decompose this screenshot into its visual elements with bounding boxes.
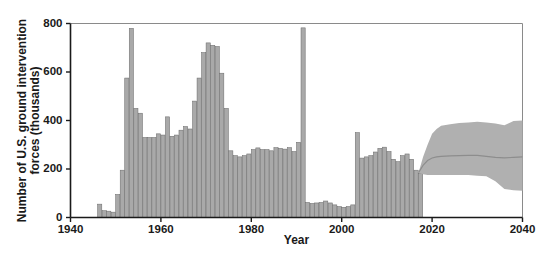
bar — [405, 154, 409, 218]
x-tick-label: 1960 — [148, 223, 174, 235]
bar — [174, 135, 178, 217]
bar — [193, 101, 197, 217]
bar — [202, 53, 206, 218]
x-tick-label: 2020 — [419, 223, 445, 235]
bar — [161, 135, 165, 217]
bar — [310, 203, 314, 217]
bar — [319, 202, 323, 217]
y-tick-label: 600 — [43, 65, 62, 77]
bar — [197, 78, 201, 217]
bar — [125, 78, 129, 217]
bar — [107, 211, 111, 217]
bar — [419, 173, 423, 217]
bar — [156, 134, 160, 218]
bar — [260, 150, 264, 218]
bar — [179, 130, 183, 217]
bar — [373, 152, 377, 217]
bar — [134, 108, 138, 217]
chart-figure: 0200400600800194019601980200020202040Num… — [0, 0, 540, 254]
bar — [278, 148, 282, 217]
bar — [410, 159, 414, 217]
bar — [220, 73, 224, 217]
bar — [256, 148, 260, 218]
x-tick-label: 1940 — [58, 223, 84, 235]
bar — [369, 156, 373, 218]
chart-canvas: 0200400600800194019601980200020202040Num… — [0, 0, 540, 254]
bar — [116, 194, 120, 217]
x-tick-label: 2000 — [329, 223, 355, 235]
bar — [328, 203, 332, 218]
bar — [247, 154, 251, 218]
bar — [215, 47, 219, 218]
bar — [414, 170, 418, 217]
bar — [211, 45, 215, 217]
bar — [400, 156, 404, 218]
bar — [265, 150, 269, 218]
bar — [224, 108, 228, 217]
bar — [143, 137, 147, 217]
y-axis-title: Number of U.S. ground interventionforces… — [15, 19, 42, 222]
bar — [387, 152, 391, 218]
bar — [138, 113, 142, 217]
bar — [337, 207, 341, 218]
bar — [382, 147, 386, 217]
bar — [98, 204, 102, 217]
bar — [301, 28, 305, 218]
bar — [333, 205, 337, 218]
bar — [297, 142, 301, 217]
bar — [129, 28, 133, 217]
y-tick-label: 200 — [43, 162, 62, 174]
bar — [274, 148, 278, 218]
bar — [315, 203, 319, 218]
bar — [152, 137, 156, 217]
y-tick-label: 0 — [56, 211, 62, 223]
bar — [396, 162, 400, 218]
x-tick-label: 1980 — [239, 223, 265, 235]
bar — [269, 151, 273, 218]
bar — [120, 170, 124, 217]
bar — [391, 159, 395, 217]
bar — [233, 156, 237, 218]
bar — [283, 149, 287, 217]
bar — [287, 148, 291, 218]
bar — [238, 157, 242, 218]
bar — [364, 157, 368, 218]
x-tick-label: 2040 — [510, 223, 536, 235]
x-axis-title: Year — [284, 233, 310, 247]
bar — [355, 133, 359, 218]
bar — [184, 127, 188, 218]
bar — [306, 202, 310, 217]
bar — [242, 156, 246, 218]
bar — [147, 137, 151, 217]
bar — [346, 207, 350, 218]
bar — [229, 151, 233, 218]
bar — [251, 150, 255, 218]
bar — [324, 201, 328, 217]
bar — [188, 129, 192, 218]
bar — [360, 158, 364, 217]
bar — [111, 212, 115, 217]
y-axis-title-line-1: Number of U.S. ground intervention — [15, 19, 29, 222]
bar — [170, 136, 174, 217]
bar — [165, 117, 169, 218]
bar-series — [98, 28, 423, 218]
bar — [378, 148, 382, 217]
y-axis-title-line-2: forces (thousands) — [28, 66, 42, 174]
y-tick-label: 400 — [43, 114, 62, 126]
bar — [206, 43, 210, 218]
y-tick-label: 800 — [43, 17, 62, 29]
bar — [342, 207, 346, 217]
bar — [292, 152, 296, 218]
projection-band — [419, 121, 523, 191]
bar — [102, 211, 106, 218]
bar — [351, 205, 355, 218]
